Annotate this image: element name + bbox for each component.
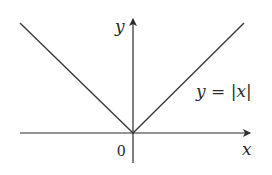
x-axis-label: x bbox=[242, 139, 252, 159]
abs-value-graph: y x 0 y = |x| bbox=[0, 0, 272, 175]
origin-label: 0 bbox=[117, 141, 126, 160]
abs-value-curve bbox=[20, 23, 244, 133]
function-label: y = |x| bbox=[195, 81, 252, 101]
y-axis-label: y bbox=[114, 16, 125, 36]
